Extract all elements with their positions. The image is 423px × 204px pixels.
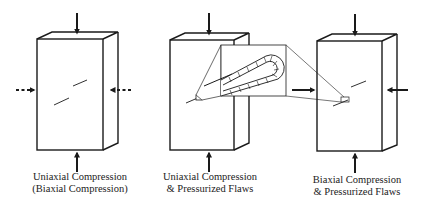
caption-line-1: Uniaxial Compression: [25, 171, 135, 183]
flaw-lines: [333, 81, 366, 106]
panel-biaxial-pressurized: [292, 14, 408, 173]
flaw-callout: [196, 45, 344, 102]
specimen-block: [37, 32, 118, 150]
caption-line-2: (Biaxial Compression): [25, 183, 135, 195]
caption-line-1: Uniaxial Compression: [155, 171, 265, 183]
panel-uniaxial-pressurized: [170, 13, 344, 172]
caption-biaxial-pressurized: Biaxial Compression & Pressurized Flaws: [302, 174, 412, 197]
caption-uniaxial: Uniaxial Compression (Biaxial Compressio…: [25, 171, 135, 194]
caption-uniaxial-pressurized: Uniaxial Compression & Pressurized Flaws: [155, 171, 265, 194]
caption-line-2: & Pressurized Flaws: [155, 183, 265, 195]
caption-line-1: Biaxial Compression: [302, 174, 412, 186]
panel-uniaxial: [16, 13, 131, 172]
diagram-stage: Uniaxial Compression (Biaxial Compressio…: [0, 0, 423, 204]
specimen-block: [317, 34, 397, 151]
caption-line-2: & Pressurized Flaws: [302, 186, 412, 198]
